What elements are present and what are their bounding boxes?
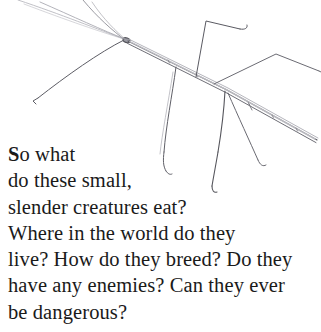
- caption-line-1: So what: [8, 141, 315, 167]
- insect-head: [122, 37, 130, 44]
- abdomen-spur: [249, 104, 252, 110]
- caption-line-5: live? How do they breed? Do they: [8, 246, 315, 272]
- caption-line-4: Where in the world do they: [8, 220, 315, 246]
- leg-front-left: [33, 40, 124, 104]
- page-root: So what do these small, slender creature…: [0, 0, 321, 332]
- leg-second-left: [40, 2, 125, 39]
- insect-body: [128, 39, 319, 142]
- caption-block: So what do these small, slender creature…: [0, 141, 321, 325]
- caption-line-3: slender creatures eat?: [8, 194, 315, 220]
- caption-line-6: have any enemies? Can they ever: [8, 272, 315, 298]
- caption-line-1-text: o what: [20, 143, 76, 165]
- caption-drop-cap: S: [8, 143, 20, 165]
- leg-right-rear: [214, 54, 321, 84]
- antenna-lower: [83, 0, 126, 40]
- caption-line-7: be dangerous?: [8, 299, 315, 325]
- antenna-upper: [18, 0, 124, 39]
- leg-upper-right: [196, 21, 247, 77]
- caption-line-2: do these small,: [8, 167, 315, 193]
